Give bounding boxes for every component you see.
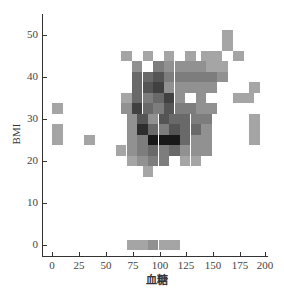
heatmap-cell: [143, 93, 154, 104]
heatmap-cell: [185, 61, 196, 72]
y-tick-label: 10: [18, 196, 38, 208]
heatmap-cell: [153, 61, 164, 72]
heatmap-cell: [127, 135, 138, 146]
heatmap-cell: [137, 240, 148, 251]
heatmap-cell: [143, 103, 154, 114]
heatmap-cell: [206, 72, 217, 83]
y-tick-mark: [43, 77, 47, 78]
y-axis-line: [42, 14, 43, 257]
y-tick-mark: [43, 203, 47, 204]
heatmap-cell: [148, 114, 159, 125]
x-tick-label: 25: [64, 259, 94, 271]
heatmap-cell: [196, 82, 207, 93]
heatmap-cell: [159, 145, 170, 156]
x-tick-label: 50: [91, 259, 121, 271]
heatmap-cell: [153, 103, 164, 114]
heatmap-cell: [121, 103, 132, 114]
heatmap-cell: [159, 240, 170, 251]
heatmap-cell: [191, 145, 202, 156]
heatmap-cell: [148, 124, 159, 135]
heatmap-cell: [132, 103, 143, 114]
heatmap-cell: [249, 114, 260, 125]
y-tick-label: 0: [18, 238, 38, 250]
heatmap-chart: 50403020100 0255075100125150175200 BMI 血…: [0, 0, 284, 294]
heatmap-cell: [127, 124, 138, 135]
heatmap-cell: [159, 135, 170, 146]
y-tick-mark: [43, 119, 47, 120]
heatmap-cell: [201, 124, 212, 135]
heatmap-cell: [196, 103, 207, 114]
heatmap-cell: [180, 145, 191, 156]
heatmap-cell: [137, 124, 148, 135]
heatmap-cell: [127, 156, 138, 167]
x-tick-mark: [106, 252, 107, 256]
heatmap-cell: [201, 114, 212, 125]
heatmap-cell: [121, 93, 132, 104]
heatmap-cell: [127, 114, 138, 125]
y-tick-mark: [43, 245, 47, 246]
heatmap-cell: [180, 156, 191, 167]
x-axis-line: [42, 256, 268, 257]
heatmap-cell: [52, 124, 63, 135]
heatmap-cell: [52, 135, 63, 146]
heatmap-cell: [180, 124, 191, 135]
heatmap-cell: [196, 72, 207, 83]
x-tick-mark: [52, 252, 53, 256]
heatmap-cell: [185, 72, 196, 83]
heatmap-cell: [127, 145, 138, 156]
x-tick-mark: [133, 252, 134, 256]
y-tick-label: 50: [18, 28, 38, 40]
heatmap-cell: [201, 145, 212, 156]
heatmap-cell: [169, 135, 180, 146]
heatmap-cell: [169, 145, 180, 156]
heatmap-cell: [164, 72, 175, 83]
x-tick-mark: [265, 252, 266, 256]
y-tick-label: 40: [18, 70, 38, 82]
heatmap-cell: [143, 51, 154, 62]
heatmap-cell: [169, 114, 180, 125]
heatmap-cell: [153, 93, 164, 104]
heatmap-cell: [52, 103, 63, 114]
heatmap-cell: [137, 114, 148, 125]
heatmap-cell: [196, 61, 207, 72]
y-axis-title: BMI: [10, 124, 22, 145]
heatmap-cell: [132, 93, 143, 104]
heatmap-cell: [132, 82, 143, 93]
heatmap-cell: [164, 61, 175, 72]
y-tick-mark: [43, 35, 47, 36]
heatmap-cell: [191, 124, 202, 135]
heatmap-cell: [222, 30, 233, 41]
heatmap-cell: [249, 135, 260, 146]
x-tick-mark: [240, 252, 241, 256]
y-tick-label: 20: [18, 154, 38, 166]
heatmap-cell: [212, 51, 223, 62]
heatmap-cell: [206, 82, 217, 93]
heatmap-cell: [175, 82, 186, 93]
heatmap-cell: [180, 114, 191, 125]
heatmap-cell: [185, 82, 196, 93]
x-tick-mark: [160, 252, 161, 256]
heatmap-cell: [153, 82, 164, 93]
heatmap-cell: [169, 124, 180, 135]
heatmap-cell: [132, 61, 143, 72]
heatmap-cell: [244, 93, 255, 104]
heatmap-cell: [233, 93, 244, 104]
heatmap-cell: [175, 72, 186, 83]
x-tick-mark: [79, 252, 80, 256]
heatmap-cell: [217, 72, 228, 83]
heatmap-cell: [159, 124, 170, 135]
heatmap-cell: [249, 82, 260, 93]
x-tick-mark: [213, 252, 214, 256]
x-tick-label: 75: [118, 259, 148, 271]
heatmap-cell: [164, 51, 175, 62]
heatmap-cell: [148, 135, 159, 146]
heatmap-cell: [191, 114, 202, 125]
heatmap-cell: [121, 51, 132, 62]
heatmap-cell: [84, 135, 95, 146]
heatmap-cell: [143, 82, 154, 93]
heatmap-cell: [206, 61, 217, 72]
heatmap-cell: [148, 240, 159, 251]
heatmap-cell: [175, 103, 186, 114]
heatmap-cell: [217, 61, 228, 72]
heatmap-cell: [137, 145, 148, 156]
